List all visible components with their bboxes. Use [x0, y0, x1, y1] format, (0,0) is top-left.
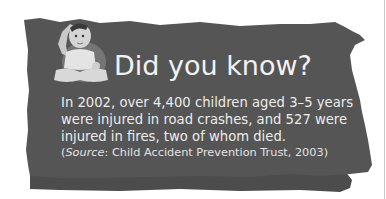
body-line: In 2002, over 4,400 children aged 3–5 ye… [61, 94, 381, 111]
callout-title: Did you know? [114, 50, 312, 82]
body-line: were injured in road crashes, and 527 we… [61, 111, 381, 128]
baby-photo [48, 18, 114, 86]
source-label: Source [65, 146, 104, 159]
callout-body: In 2002, over 4,400 children aged 3–5 ye… [61, 94, 381, 145]
source-citation: (Source: Child Accident Prevention Trust… [61, 146, 328, 160]
source-text: : Child Accident Prevention Trust, 2003) [104, 146, 328, 159]
body-line: injured in fires, two of whom died. [61, 128, 381, 145]
